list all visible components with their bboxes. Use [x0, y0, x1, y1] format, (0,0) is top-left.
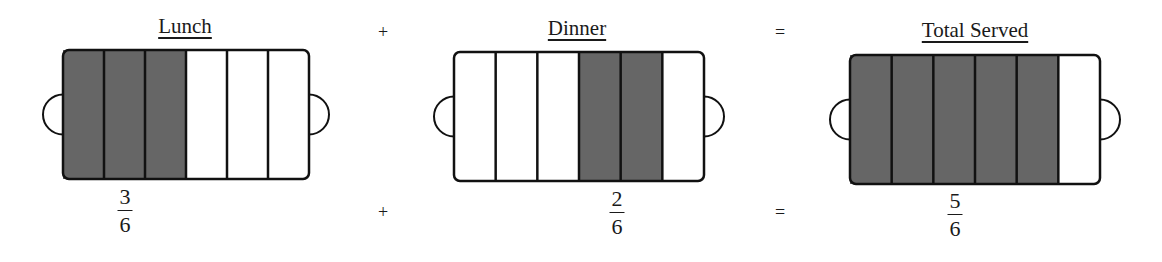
dinner-denominator: 6 [610, 213, 625, 238]
left-handle-icon [43, 95, 63, 135]
right-handle-icon [1100, 100, 1120, 140]
dinner-numerator: 2 [610, 188, 625, 213]
lunch-denominator: 6 [118, 211, 133, 236]
pan-section [933, 55, 975, 184]
total-served-pan [827, 51, 1123, 191]
equals-operator-top: = [775, 22, 785, 43]
equals-operator-bottom: = [775, 202, 785, 223]
plus-operator-top: + [378, 22, 388, 43]
pan-section [537, 52, 579, 181]
total-served-denominator: 6 [948, 215, 963, 240]
pan-section [850, 55, 892, 184]
pan-section [1017, 55, 1059, 184]
right-handle-icon [309, 95, 329, 135]
dinner-pan [431, 48, 727, 188]
pan-section [579, 52, 621, 181]
lunch-title: Lunch [158, 14, 212, 39]
pan-section [892, 55, 934, 184]
pan-section [454, 52, 496, 181]
pan-section [227, 50, 268, 179]
pan-section [1058, 55, 1100, 184]
dinner-title: Dinner [548, 16, 606, 41]
right-handle-icon [704, 97, 724, 137]
lunch-fraction: 3 6 [118, 186, 133, 236]
pan-section [268, 50, 309, 179]
pan-section [186, 50, 227, 179]
left-handle-icon [830, 100, 850, 140]
total-served-title: Total Served [922, 18, 1028, 43]
pan-section [63, 50, 104, 179]
left-handle-icon [434, 97, 454, 137]
pan-section [975, 55, 1017, 184]
total-served-fraction: 5 6 [948, 190, 963, 240]
pan-section [662, 52, 704, 181]
pan-section [496, 52, 538, 181]
plus-operator-bottom: + [378, 202, 388, 223]
pan-section [145, 50, 186, 179]
pan-section [621, 52, 663, 181]
lunch-pan [40, 46, 332, 186]
total-served-numerator: 5 [948, 190, 963, 215]
lunch-numerator: 3 [118, 186, 133, 211]
pan-section [104, 50, 145, 179]
dinner-fraction: 2 6 [610, 188, 625, 238]
